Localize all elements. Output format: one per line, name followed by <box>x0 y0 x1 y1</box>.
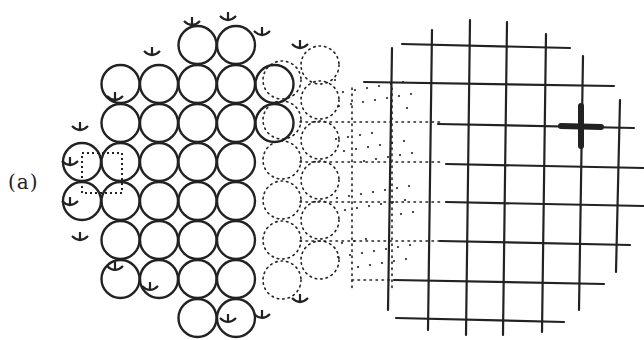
dot <box>338 105 340 107</box>
circle <box>217 221 255 259</box>
dot <box>347 136 349 138</box>
cusp <box>72 232 88 240</box>
circle <box>179 299 217 337</box>
dot <box>353 240 355 242</box>
panel-label: (a) <box>8 170 39 194</box>
figure: (a) <box>0 0 644 340</box>
dotted-transition-region <box>263 46 440 299</box>
circle <box>102 104 140 142</box>
dot <box>392 201 394 203</box>
circle <box>102 143 140 181</box>
dotted-circle <box>301 121 339 159</box>
dot <box>366 87 368 89</box>
cusp <box>292 40 308 48</box>
circle <box>102 182 140 220</box>
grid-vertical-line <box>542 34 546 332</box>
circle <box>217 65 255 103</box>
cusp <box>220 12 236 20</box>
circle <box>140 65 178 103</box>
circle <box>217 143 255 181</box>
circle-array <box>62 12 308 337</box>
dot <box>410 93 412 95</box>
dot <box>372 191 374 193</box>
dot <box>403 140 405 142</box>
dot <box>408 185 410 187</box>
dot <box>365 238 367 240</box>
grid-horizontal-line <box>446 202 644 206</box>
cross-marker-icon <box>561 106 601 146</box>
dot <box>406 107 408 109</box>
dot <box>385 248 387 250</box>
dot <box>362 101 364 103</box>
dotted-circle <box>301 46 339 84</box>
circle <box>179 143 217 181</box>
dot <box>343 150 345 152</box>
lattice-diagram <box>0 0 644 340</box>
dot <box>399 154 401 156</box>
dot <box>380 203 382 205</box>
dot <box>393 260 395 262</box>
dot <box>374 99 376 101</box>
dot <box>334 79 336 81</box>
circle <box>217 26 255 64</box>
dot <box>387 156 389 158</box>
grid-vertical-line <box>428 30 432 330</box>
dot <box>371 132 373 134</box>
dot <box>357 266 359 268</box>
cusp <box>144 47 160 55</box>
dot <box>361 252 363 254</box>
grid-vertical-line <box>503 22 507 335</box>
circle <box>179 65 217 103</box>
dot <box>336 197 338 199</box>
circle <box>140 143 178 181</box>
circle <box>140 104 178 142</box>
cusp <box>254 310 270 318</box>
circle <box>179 104 217 142</box>
dot <box>368 205 370 207</box>
dot <box>375 158 377 160</box>
circle <box>102 221 140 259</box>
grid-horizontal-line <box>438 124 634 128</box>
dot <box>344 209 346 211</box>
dot <box>398 95 400 97</box>
cusp <box>107 92 123 100</box>
dot <box>337 256 339 258</box>
grid-horizontal-line <box>396 318 564 322</box>
dot <box>397 246 399 248</box>
grid-horizontal-line <box>364 82 614 86</box>
dotted-circle <box>301 201 339 239</box>
dot <box>355 148 357 150</box>
circle <box>179 221 217 259</box>
circle <box>217 182 255 220</box>
dotted-circle <box>301 241 339 279</box>
dot <box>400 213 402 215</box>
dot <box>373 250 375 252</box>
dot <box>348 195 350 197</box>
grid-horizontal-line <box>440 241 630 245</box>
dot <box>369 264 371 266</box>
dot <box>349 254 351 256</box>
circle <box>140 182 178 220</box>
dotted-circle <box>301 81 339 119</box>
dot <box>335 138 337 140</box>
dot <box>342 91 344 93</box>
cusp <box>220 314 236 322</box>
cusp <box>142 282 158 290</box>
circle <box>256 104 294 142</box>
cusp <box>184 17 200 25</box>
dot <box>350 103 352 105</box>
square-grid <box>364 20 644 335</box>
circle <box>140 260 178 298</box>
grid-horizontal-line <box>394 280 604 284</box>
circle <box>217 260 255 298</box>
grid-vertical-line <box>466 20 470 335</box>
dot <box>381 262 383 264</box>
dot <box>405 258 407 260</box>
dot <box>396 187 398 189</box>
dotted-circle <box>301 161 339 199</box>
grid-vertical-line <box>579 56 583 310</box>
dot <box>341 242 343 244</box>
dot <box>367 146 369 148</box>
dot <box>386 97 388 99</box>
dot <box>384 189 386 191</box>
